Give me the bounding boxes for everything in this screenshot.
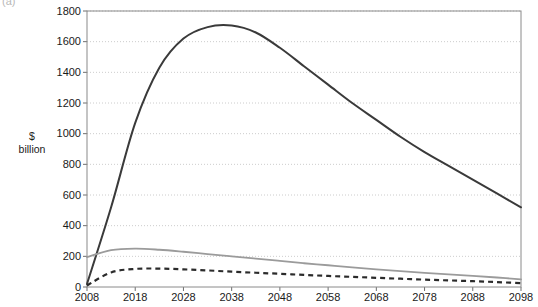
series-line-3	[87, 268, 521, 285]
series-line-1	[87, 25, 521, 284]
plot-frame	[87, 11, 521, 287]
data-series-group	[87, 25, 521, 285]
x-tick-mark-group	[87, 287, 521, 291]
gridline-group	[87, 11, 521, 256]
y-tick-mark-group	[83, 11, 87, 287]
axis-frame	[87, 11, 521, 287]
